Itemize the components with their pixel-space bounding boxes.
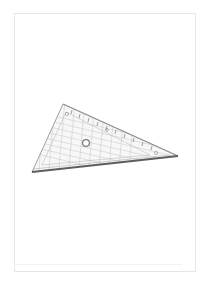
set-square-ruler	[0, 0, 219, 286]
center-hole	[83, 140, 90, 147]
